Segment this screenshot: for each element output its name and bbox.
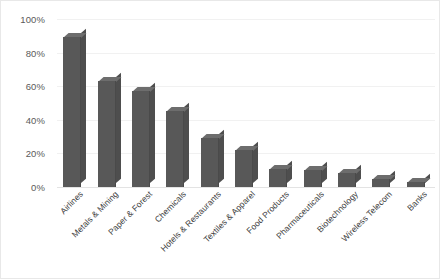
bar — [166, 111, 184, 187]
gridline — [57, 19, 435, 20]
x-axis-tick-label: Hotels & Restaurants — [158, 189, 223, 254]
bar-front-face — [235, 150, 253, 187]
bar-side-face — [81, 29, 86, 183]
bar-front-face — [338, 173, 356, 187]
bar-chart: 0%20%40%60%80%100% AirlinesMetals & Mini… — [0, 0, 440, 279]
y-axis: 0%20%40%60%80%100% — [1, 1, 53, 279]
bar — [201, 138, 219, 187]
bar-side-face — [116, 73, 121, 183]
x-axis-tick-label: Airlines — [58, 189, 85, 216]
x-axis-tick-label: Chemicals — [153, 189, 188, 224]
bar — [407, 182, 425, 187]
axis-baseline — [57, 187, 435, 188]
plot-area — [57, 19, 435, 187]
bar-front-face — [269, 169, 287, 187]
y-axis-tick-label: 60% — [26, 81, 45, 92]
bar-side-face — [356, 165, 361, 183]
bar-front-face — [166, 111, 184, 187]
bar — [98, 81, 116, 187]
bar — [235, 150, 253, 187]
bar-side-face — [184, 103, 189, 183]
bar-side-face — [287, 160, 292, 183]
x-axis-tick-label: Banks — [405, 189, 429, 213]
y-axis-tick-label: 0% — [31, 182, 45, 193]
y-axis-tick-label: 20% — [26, 148, 45, 159]
bar — [269, 169, 287, 187]
bar — [63, 37, 81, 187]
bar-front-face — [304, 170, 322, 187]
bar — [338, 173, 356, 187]
y-axis-tick-label: 80% — [26, 47, 45, 58]
y-axis-tick-label: 40% — [26, 114, 45, 125]
x-axis: AirlinesMetals & MiningPaper & ForestChe… — [57, 189, 435, 279]
bar-side-face — [150, 83, 155, 183]
bar — [132, 91, 150, 187]
bar-front-face — [132, 91, 150, 187]
y-axis-tick-label: 100% — [20, 14, 45, 25]
bar-front-face — [201, 138, 219, 187]
bar-front-face — [63, 37, 81, 187]
gridline — [57, 53, 435, 54]
bar-front-face — [372, 179, 390, 187]
bar — [372, 179, 390, 187]
bar-front-face — [407, 182, 425, 187]
bar-front-face — [98, 81, 116, 187]
bar — [304, 170, 322, 187]
